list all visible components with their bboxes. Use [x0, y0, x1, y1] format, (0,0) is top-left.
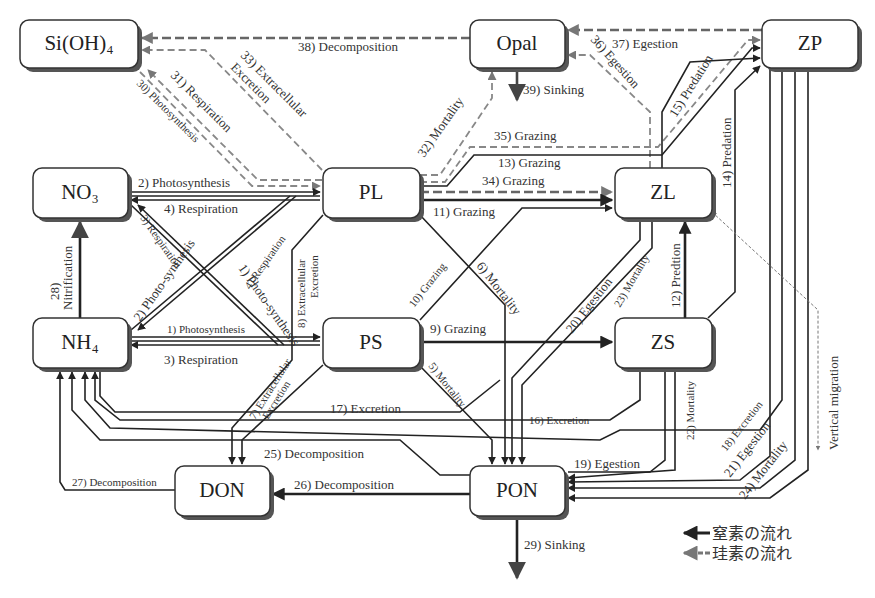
flow-37-label: 37) Egestion — [612, 36, 679, 51]
flow-32-label: 32) Mortality — [414, 94, 467, 160]
flow-11-label: 11) Grazing — [433, 204, 495, 219]
flow-19-label: 19) Egestion — [574, 456, 641, 471]
flow-2-label: 2) Photosynthesis — [138, 175, 230, 190]
flow-5-label: 5) Mortality — [426, 360, 469, 411]
node-zs[interactable]: ZS — [615, 318, 716, 372]
flow-10-label: 10) Grazing — [406, 260, 449, 310]
flow-4-label: 4) Respiration — [164, 201, 239, 216]
legend-nitrogen-label: 窒素の流れ — [712, 524, 792, 543]
node-pon[interactable]: PON — [470, 466, 569, 520]
node-no3[interactable]: NO₃ — [33, 168, 132, 222]
legend: 窒素の流れ 珪素の流れ — [684, 524, 792, 563]
vertical-migration-line — [712, 212, 818, 450]
flow-6-label: 6) Mortality — [474, 259, 525, 318]
flow-31-line — [148, 70, 322, 180]
node-don-label: DON — [199, 478, 245, 502]
flow-14-label: 14) Predation — [719, 117, 734, 188]
node-zs-label: ZS — [651, 330, 676, 354]
node-nh4-label: NH₄ — [61, 330, 99, 354]
flow-35-label: 35) Grazing — [494, 128, 557, 143]
flow-3-label: 3) Respiration — [164, 352, 239, 367]
flow-1-label: 1) Photosynthesis — [167, 323, 245, 336]
node-sioh4-label: Si(OH)₄ — [44, 31, 113, 55]
flow-27-label: 27) Decomposition — [72, 476, 157, 489]
node-pl-label: PL — [359, 180, 384, 204]
flow-39-label: 39) Sinking — [523, 82, 585, 97]
flow-8-label-line1: 8) Extracellular — [295, 259, 308, 328]
node-ps[interactable]: PS — [323, 318, 424, 372]
node-opal[interactable]: Opal — [470, 20, 569, 72]
flow-8-label-line2: Excretion — [308, 255, 320, 298]
flow-9-label: 9) Grazing — [430, 321, 486, 336]
legend-silicon-label: 珪素の流れ — [712, 544, 792, 563]
flow-26-label: 26) Decomposition — [294, 477, 395, 492]
node-sioh4[interactable]: Si(OH)₄ — [20, 20, 142, 72]
node-ps-label: PS — [359, 330, 382, 354]
flow-29-label: 29) Sinking — [524, 537, 586, 552]
node-zp-label: ZP — [798, 31, 823, 55]
flow-38-label: 38) Decomposition — [298, 39, 399, 54]
flow-labels: 38) Decomposition 33) Extracellular Excr… — [47, 32, 841, 552]
flow-25-label: 25) Decomposition — [264, 446, 365, 461]
flow-13-label: 13) Grazing — [498, 155, 561, 170]
vertical-migration-label: Vertical migration — [826, 355, 841, 450]
flow-16-label: 16) Excretion — [529, 414, 590, 427]
flow-23-label: 23) Mortality — [611, 252, 652, 310]
flow-12-label: 12) Predtion — [668, 243, 683, 308]
node-pl[interactable]: PL — [323, 168, 424, 222]
ecosystem-model-diagram: Si(OH)₄ Opal ZP NO₃ PL ZL NH₄ PS ZS — [0, 0, 875, 598]
node-opal-label: Opal — [497, 31, 538, 55]
flow-20-label: 20) Egestion — [563, 274, 616, 336]
node-zl-label: ZL — [650, 180, 676, 204]
node-don[interactable]: DON — [175, 466, 274, 520]
node-pon-label: PON — [496, 478, 538, 502]
node-nh4[interactable]: NH₄ — [33, 318, 132, 372]
node-zp[interactable]: ZP — [762, 20, 862, 72]
flow-17-label: 17) Excretion — [330, 401, 402, 416]
flow-32-line — [420, 72, 492, 175]
node-no3-label: NO₃ — [61, 180, 99, 204]
flow-22-label: 22) Mortality — [684, 381, 697, 440]
flow-28-label-line2: Nitrification — [60, 245, 75, 310]
flow-1b-label: 1) Photo-synthesis — [236, 261, 304, 349]
flow-36-line — [568, 55, 650, 168]
flow-34-label: 34) Grazing — [482, 173, 545, 188]
node-zl[interactable]: ZL — [615, 168, 716, 222]
